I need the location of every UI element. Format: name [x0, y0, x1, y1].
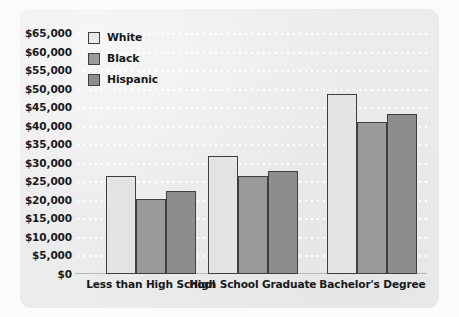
y-axis-tick-label: $50,000	[10, 83, 72, 95]
bar-hispanic-2	[387, 114, 417, 274]
bar-white-1	[208, 156, 238, 274]
y-axis-tick-label: $60,000	[10, 46, 72, 58]
bar-black-0	[136, 199, 166, 274]
legend-swatch-hispanic-icon	[88, 74, 100, 86]
bar-white-0	[106, 176, 136, 274]
legend-label: Hispanic	[107, 73, 158, 86]
y-axis-tick-label: $55,000	[10, 64, 72, 76]
y-axis-tick-label: $5,000	[10, 249, 72, 261]
gridline	[75, 107, 427, 109]
chart-legend: WhiteBlackHispanic	[88, 28, 158, 91]
bar-black-1	[238, 176, 268, 274]
bar-hispanic-0	[166, 191, 196, 274]
y-axis-tick-label: $35,000	[10, 138, 72, 150]
y-axis-labels: $65,000$60,000$55,000$50,000$45,000$40,0…	[6, 33, 72, 274]
legend-label: Black	[107, 52, 139, 65]
y-axis-tick-label: $40,000	[10, 120, 72, 132]
legend-label: White	[107, 31, 142, 44]
legend-item-black[interactable]: Black	[88, 49, 158, 68]
y-axis-tick-label: $20,000	[10, 194, 72, 206]
bar-hispanic-1	[268, 171, 298, 274]
legend-item-hispanic[interactable]: Hispanic	[88, 70, 158, 89]
legend-swatch-black-icon	[88, 53, 100, 65]
y-axis-tick-label: $25,000	[10, 175, 72, 187]
y-axis-tick-label: $15,000	[10, 212, 72, 224]
y-axis-tick-label: $65,000	[10, 27, 72, 39]
y-axis-tick-label: $45,000	[10, 101, 72, 113]
bar-black-2	[357, 122, 387, 274]
category-label-2: Bachelor's Degree	[272, 278, 459, 290]
y-axis-tick-label: $10,000	[10, 231, 72, 243]
bar-white-2	[327, 94, 357, 274]
chart-figure: $65,000$60,000$55,000$50,000$45,000$40,0…	[0, 0, 459, 317]
legend-item-white[interactable]: White	[88, 28, 158, 47]
legend-swatch-white-icon	[88, 32, 100, 44]
y-axis-tick-label: $30,000	[10, 157, 72, 169]
